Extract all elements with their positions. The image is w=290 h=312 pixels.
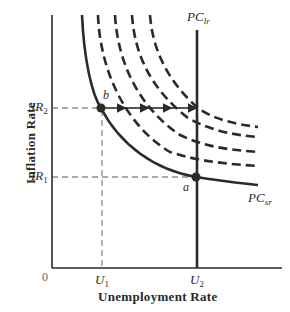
x-axis-label: Unemployment Rate (98, 289, 218, 305)
u1-label: U1 (95, 272, 109, 289)
long-run-curve-label-sub: lr (204, 16, 210, 26)
long-run-curve-label: PClr (187, 9, 210, 26)
u2-label: U2 (190, 272, 204, 289)
u2-label-sub: 2 (199, 279, 204, 289)
point-b-label: b (103, 88, 109, 103)
phillips-curve-diagram: Inflation Rate IR2 IR1 0 U1 U2 Unemploym… (0, 0, 290, 312)
u1-label-main: U (95, 272, 104, 287)
origin-label: 0 (42, 270, 48, 285)
short-run-curve-label: PCsr (248, 190, 272, 207)
short-run-curve-label-main: PC (248, 190, 265, 205)
shifted-short-run-curve-1 (98, 15, 258, 166)
shifted-short-run-curve-3 (132, 15, 258, 137)
ir2-label-sub: 2 (43, 106, 48, 116)
shifted-short-run-curve-4 (150, 15, 258, 127)
u1-label-sub: 1 (104, 279, 109, 289)
ir1-label: IR1 (31, 168, 48, 185)
ir2-label-main: IR (31, 99, 43, 114)
ir1-label-main: IR (31, 168, 43, 183)
ir1-label-sub: 1 (43, 175, 48, 185)
point-b-marker (97, 104, 106, 113)
shifted-short-run-curve-2 (115, 15, 258, 152)
long-run-curve-label-main: PC (187, 9, 204, 24)
u2-label-main: U (190, 272, 199, 287)
diagram-canvas (0, 0, 290, 312)
point-a-marker (192, 173, 201, 182)
point-a-label: a (183, 180, 189, 195)
ir2-label: IR2 (31, 99, 48, 116)
short-run-curve-label-sub: sr (265, 197, 272, 207)
